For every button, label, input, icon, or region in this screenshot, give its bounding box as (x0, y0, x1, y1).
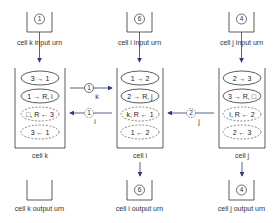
cell-j-group: 4 cell j input urn 2 → 3 3 → R, □ i, R ←… (218, 12, 266, 213)
token-label: □, R ← 3 (26, 111, 54, 118)
token-label: 2 → R, j (127, 93, 153, 101)
urn-count: 1 (38, 15, 42, 22)
cell-k-output-urn-label: cell k output urn (15, 205, 65, 213)
urn-count: 4 (240, 15, 244, 22)
cell-k-input-urn: 1 (27, 12, 52, 32)
token-label: 1 → 2 (131, 75, 150, 82)
message-label: j (197, 118, 200, 126)
cell-i-output-urn-label: cell i output urn (116, 205, 164, 213)
cell-i-output-urn: 6 (127, 180, 152, 200)
message-label: k (95, 93, 99, 100)
cell-j-output-urn-label: cell j output urn (218, 205, 266, 213)
message-j-to-i: 2 j (168, 109, 214, 127)
cell-network-diagram: 1 cell k input urn 3 → 1 1 → R, i □, R ←… (0, 0, 280, 223)
cell-j-output-urn: 4 (229, 180, 254, 200)
token-label: i, R ← 2 (229, 111, 254, 118)
cell-j-label: cell j (235, 152, 249, 160)
cell-k-label: cell k (32, 152, 48, 159)
urn-count: 4 (240, 186, 244, 193)
token-label: 1 → R, i (27, 93, 53, 100)
cell-i-input-urn: 6 (127, 12, 152, 32)
token-label: 3 → R, □ (228, 93, 257, 100)
message-i-to-k: 1 i (70, 109, 112, 126)
message-label: i (94, 118, 96, 125)
cell-k-group: 1 cell k input urn 3 → 1 1 → R, i □, R ←… (15, 12, 65, 213)
urn-count: 6 (138, 186, 142, 193)
message-k-to-i: 1 k (70, 84, 112, 101)
token-label: 3 → 1 (31, 75, 50, 82)
token-label: 2 → 3 (233, 75, 252, 82)
cell-i-group: 6 cell i input urn 1 → 2 2 → R, j k, R ←… (116, 12, 164, 213)
urn-count: 6 (138, 15, 142, 22)
token-label: 2 ← 3 (233, 129, 252, 136)
message-value: 1 (87, 84, 91, 91)
token-label: k, R ← 1 (126, 111, 153, 118)
message-value: 1 (87, 109, 91, 116)
cell-i-label: cell i (133, 152, 147, 159)
message-value: 2 (189, 109, 193, 116)
token-label: 3 ← 1 (31, 129, 50, 136)
cell-k-output-urn (27, 180, 52, 200)
token-label: 1 ← 2 (131, 129, 150, 136)
cell-j-input-urn: 4 (229, 12, 254, 32)
